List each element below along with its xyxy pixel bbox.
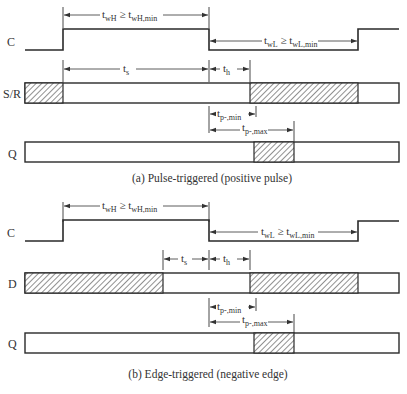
twH-label: twH ≥ twH,min — [102, 8, 157, 23]
clock-waveform — [25, 220, 399, 241]
tpmax-label: tp-,max — [242, 121, 268, 136]
th-label: th — [223, 252, 230, 267]
caption-a: (a) Pulse-triggered (positive pulse) — [132, 172, 292, 185]
twH-dimension: twH ≥ twH,min — [63, 7, 209, 28]
signal-label-clock: C — [7, 226, 15, 240]
signal-label-output: Q — [8, 147, 17, 161]
tpmin-label: tp-,min — [217, 107, 241, 122]
panel-b-edge-triggered: twH ≥ twH,min C twL ≥ twL,min ts th D — [7, 199, 399, 381]
tpmin-label: tp-,min — [217, 300, 241, 315]
panel-a-pulse-triggered: twH ≥ twH,min C twL ≥ twL,min ts th S/R — [3, 7, 399, 185]
caption-b: (b) Edge-triggered (negative edge) — [128, 368, 287, 381]
setup-hold-dimension: ts th — [63, 60, 250, 82]
d-waveform — [25, 273, 399, 293]
q-waveform — [25, 142, 399, 162]
signal-label-input: S/R — [3, 87, 21, 101]
twH-dimension: twH ≥ twH,min — [63, 199, 209, 222]
tpmax-label: tp-,max — [242, 313, 268, 328]
q-waveform — [25, 333, 399, 353]
twL-label: twL ≥ twL,min — [261, 225, 314, 240]
twL-dimension: twL ≥ twL,min — [210, 34, 357, 49]
signal-label-input: D — [8, 277, 17, 291]
clock-waveform — [25, 29, 399, 50]
ts-label: ts — [181, 252, 187, 267]
setup-hold-dimension: ts th — [163, 250, 250, 270]
timing-diagram: twH ≥ twH,min C twL ≥ twL,min ts th S/R — [0, 0, 407, 394]
twL-dimension: twL ≥ twL,min — [210, 225, 357, 240]
th-label: th — [223, 62, 230, 77]
ts-label: ts — [123, 62, 129, 77]
signal-label-clock: C — [7, 35, 15, 49]
twH-label: twH ≥ twH,min — [102, 199, 157, 214]
sr-waveform — [25, 83, 399, 103]
signal-label-output: Q — [8, 337, 17, 351]
twL-label: twL ≥ twL,min — [264, 34, 317, 49]
propagation-delay-dimension: tp-,min tp-,max — [209, 298, 294, 334]
propagation-delay-dimension: tp-,min tp-,max — [209, 106, 294, 141]
